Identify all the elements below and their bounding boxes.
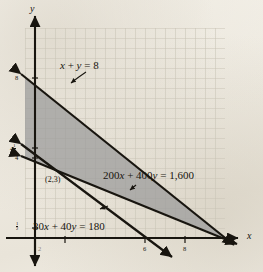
equation-label-30x-40y: 30x + 40y = 180 — [33, 221, 105, 232]
eq3-coef1: 30 — [33, 220, 44, 232]
x-tick-label-6: 6 — [143, 246, 146, 253]
eq1-equals: = — [82, 59, 94, 71]
equation-label-x-plus-y: x + y = 8 — [60, 60, 99, 71]
vertex-point-label: (2,3) — [45, 176, 60, 184]
y-tick-half-numerator: 1 — [16, 221, 18, 226]
y-tick-4half-numerator: 1 — [13, 143, 15, 148]
y-tick-half-denominator: 2 — [16, 226, 18, 232]
eq3-plus: + — [49, 220, 61, 232]
eq2-coef1: 200 — [103, 169, 120, 181]
y-tick-label-4-and-half: 412 — [10, 144, 16, 154]
eq2-coef2: 400 — [136, 169, 153, 181]
eq2-plus: + — [124, 169, 136, 181]
y-tick-label-4: 4 — [15, 155, 18, 162]
x-tick-label-8: 8 — [183, 246, 186, 253]
x-tick-label-2: 2 — [38, 246, 41, 253]
y-tick-label-half: 12 — [16, 222, 18, 232]
figure-container: y x 8 412 4 12 2 6 8 x + y = 8 200x + 40… — [0, 0, 263, 272]
eq2-rhs: 1,600 — [169, 169, 194, 181]
y-tick-half-fraction: 12 — [16, 222, 18, 232]
y-tick-label-8: 8 — [15, 75, 18, 82]
y-tick-4half-fraction: 12 — [13, 144, 15, 154]
eq2-equals: = — [158, 169, 170, 181]
eq3-rhs: 180 — [88, 220, 105, 232]
equation-label-200x-400y: 200x + 400y = 1,600 — [103, 170, 194, 181]
eq3-coef2: 40 — [61, 220, 72, 232]
eq1-rhs: 8 — [93, 59, 99, 71]
y-axis-label: y — [30, 4, 34, 14]
eq3-equals: = — [77, 220, 89, 232]
eq1-plus: + — [65, 59, 77, 71]
x-axis-label: x — [247, 231, 251, 241]
